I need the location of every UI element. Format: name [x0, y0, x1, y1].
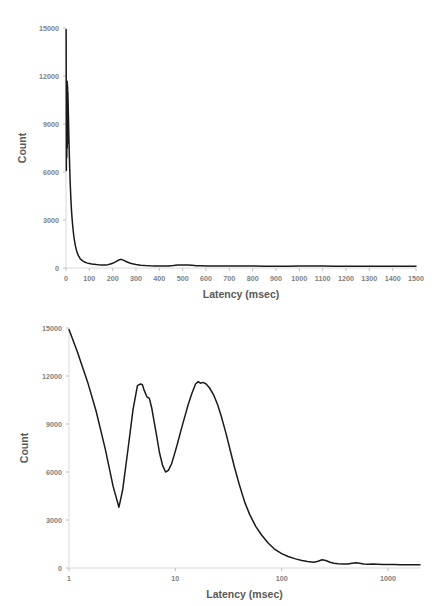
- figure-log-latency: 030006000900012000150001101001000Latency…: [0, 303, 432, 606]
- series-line-latency-count: [66, 30, 416, 267]
- x-tick-label: 1100: [315, 274, 331, 283]
- y-tick-label: 12000: [39, 72, 59, 81]
- x-tick-label: 500: [177, 274, 189, 283]
- x-axis-title: Latency (msec): [203, 288, 279, 300]
- x-tick-label: 1200: [338, 274, 354, 283]
- y-axis-title: Count: [16, 132, 28, 163]
- chart-page: 0300060009000120001500001002003004005006…: [0, 0, 432, 606]
- y-tick-label: 6000: [46, 468, 62, 477]
- y-tick-label: 12000: [42, 372, 62, 381]
- y-tick-label: 3000: [46, 516, 62, 525]
- x-tick-label: 700: [223, 274, 235, 283]
- y-tick-label: 9000: [43, 120, 59, 129]
- x-axis-title: Latency (msec): [206, 588, 282, 600]
- x-tick-label: 1400: [385, 274, 401, 283]
- y-tick-label: 9000: [46, 420, 62, 429]
- y-axis-title: Count: [18, 432, 30, 463]
- y-tick-label: 0: [55, 264, 59, 273]
- x-tick-label: 300: [130, 274, 142, 283]
- y-tick-label: 15000: [39, 24, 59, 33]
- y-tick-label: 6000: [43, 168, 59, 177]
- x-tick-label: 10: [171, 574, 179, 583]
- x-tick-label: 400: [153, 274, 165, 283]
- x-tick-label: 1300: [361, 274, 377, 283]
- series-line-latency-count: [69, 330, 420, 565]
- x-tick-label: 600: [200, 274, 212, 283]
- x-tick-label: 1000: [291, 274, 307, 283]
- chart-canvas-linear-latency-histogram: 0300060009000120001500001002003004005006…: [0, 0, 432, 303]
- chart-canvas-log-latency-histogram: 030006000900012000150001101001000Latency…: [0, 303, 432, 606]
- x-tick-label: 800: [247, 274, 259, 283]
- x-tick-label: 1000: [380, 574, 396, 583]
- x-tick-label: 100: [276, 574, 288, 583]
- figure-linear-latency: 0300060009000120001500001002003004005006…: [0, 0, 432, 303]
- x-tick-label: 1: [67, 574, 71, 583]
- x-tick-label: 1500: [408, 274, 424, 283]
- y-tick-label: 3000: [43, 216, 59, 225]
- x-tick-label: 0: [64, 274, 68, 283]
- y-tick-label: 0: [58, 564, 62, 573]
- y-tick-label: 15000: [42, 324, 62, 333]
- x-tick-label: 900: [270, 274, 282, 283]
- x-tick-label: 100: [83, 274, 95, 283]
- x-tick-label: 200: [107, 274, 119, 283]
